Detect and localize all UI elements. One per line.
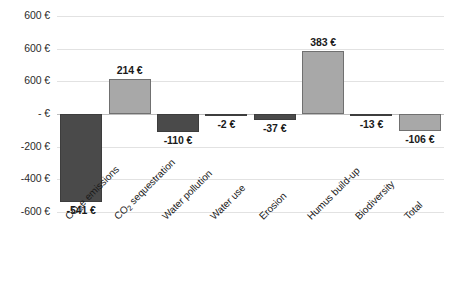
bar-total[interactable]: [399, 114, 441, 131]
bar-value-label: -110 €: [164, 134, 193, 146]
bar-biodiversity[interactable]: [350, 114, 392, 116]
bar-water-pollution[interactable]: [157, 114, 199, 132]
bar-value-label: -106 €: [405, 133, 434, 145]
bar-slot: -106 €: [396, 16, 444, 212]
bar-water-use[interactable]: [205, 114, 247, 116]
y-axis-tick-label: 600 €: [0, 74, 50, 86]
bar-value-label: 214 €: [117, 64, 143, 76]
bar-value-label: -13 €: [360, 118, 383, 130]
y-axis-tick-label: 600 €: [0, 42, 50, 54]
y-axis-tick-label: 600 €: [0, 9, 50, 21]
bar-value-label: -37 €: [263, 122, 286, 134]
chart-container: 600 €600 €600 €- €-200 €-400 €-600 € -54…: [0, 0, 449, 297]
subscript: 2: [125, 203, 134, 212]
bar-value-label: 383 €: [310, 36, 336, 48]
y-axis-tick-label: -200 €: [0, 140, 50, 152]
bar-slot: -37 €: [251, 16, 299, 212]
bar-humus-build-up[interactable]: [302, 51, 344, 114]
bar-value-label: -2 €: [217, 118, 235, 130]
bar-erosion[interactable]: [254, 114, 296, 120]
x-axis-category-labels: CO2e emissionsCO2 sequestrationWater pol…: [57, 214, 444, 297]
bar-slot: -2 €: [202, 16, 250, 212]
y-axis-tick-label: - €: [0, 107, 50, 119]
bar-co2-sequestration[interactable]: [109, 79, 151, 114]
y-axis-tick-label: -400 €: [0, 172, 50, 184]
y-axis-tick-label: -600 €: [0, 205, 50, 217]
